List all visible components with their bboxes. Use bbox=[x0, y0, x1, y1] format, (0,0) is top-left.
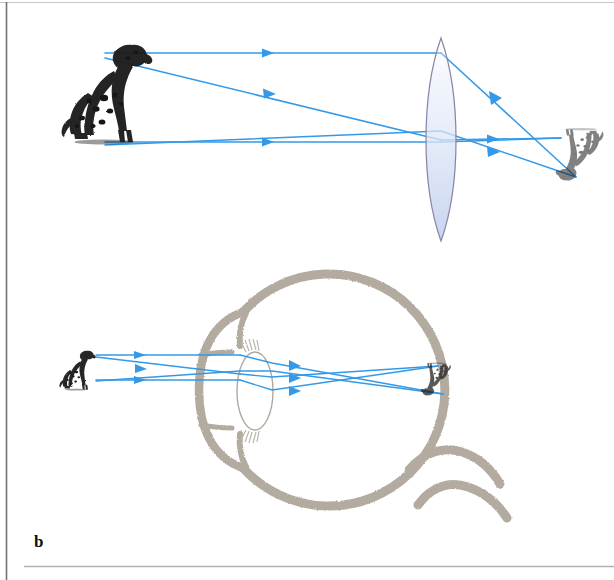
ray-head-oblique-eye bbox=[96, 357, 240, 374]
arrowhead-lower-refracted bbox=[487, 146, 500, 157]
ray-head-parallel-refracted bbox=[441, 53, 576, 177]
crystalline-lens-body bbox=[237, 352, 273, 430]
crystalline-lens bbox=[237, 352, 273, 430]
arrowhead-middle-incident bbox=[263, 89, 276, 99]
ray-head-oblique bbox=[105, 58, 441, 140]
optics-figure-svg bbox=[0, 0, 614, 580]
bottom-panel-eye-diagram bbox=[59, 274, 507, 518]
ray-feet-oblique bbox=[105, 131, 441, 145]
optic-nerve-upper-edge bbox=[409, 450, 500, 484]
top-object-dog-upright bbox=[62, 45, 153, 145]
optic-nerve-lower-edge bbox=[418, 485, 507, 518]
top-image-dog-inverted bbox=[556, 128, 604, 181]
arrowhead-top-incident bbox=[262, 49, 274, 58]
limbus-bottom bbox=[240, 434, 246, 467]
arrowhead-middle-incident-eye bbox=[135, 364, 147, 373]
figure-frame bbox=[0, 2, 614, 580]
arrowhead-axis-refracted bbox=[487, 135, 499, 144]
arrowhead-lower-refracted-eye bbox=[289, 386, 301, 396]
figure-container: b bbox=[0, 0, 614, 580]
converging-lens bbox=[426, 38, 456, 241]
lens-body bbox=[426, 38, 456, 241]
arrowhead-top-incident-eye bbox=[134, 351, 146, 359]
bottom-object-dog-upright bbox=[59, 351, 95, 391]
top-incident-rays bbox=[105, 53, 441, 145]
panel-label-b: b bbox=[34, 533, 43, 550]
eye-incident-rays bbox=[96, 355, 240, 381]
arrowhead-upper-refracted-eye bbox=[289, 360, 301, 371]
iris-lower bbox=[201, 425, 232, 428]
top-refracted-rays bbox=[441, 53, 576, 177]
top-panel-camera-lens-diagram bbox=[62, 38, 604, 241]
